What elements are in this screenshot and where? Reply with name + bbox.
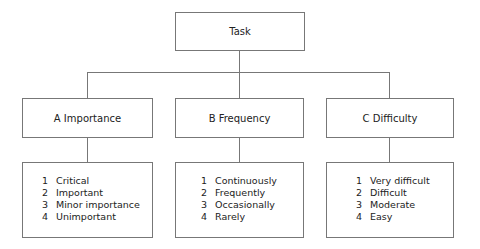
list-item: 3Minor importance [42, 199, 140, 211]
importance-label: A Importance [54, 113, 121, 124]
task-node: Task [175, 12, 305, 51]
list-item: 3Occasionally [201, 199, 277, 211]
frequency-label: B Frequency [209, 113, 271, 124]
list-item: 1Critical [42, 175, 140, 187]
list-item: 4Rarely [201, 211, 277, 223]
connector-a-down [87, 72, 88, 98]
connector-c-list [389, 137, 390, 162]
connector-root-down [239, 51, 240, 72]
list-item: 1Very difficult [356, 175, 430, 187]
list-item: 3Moderate [356, 199, 430, 211]
list-item: 2Difficult [356, 187, 430, 199]
importance-node: A Importance [22, 98, 153, 138]
difficulty-label: C Difficulty [363, 113, 418, 124]
difficulty-node: C Difficulty [326, 98, 454, 138]
list-item: 1Continuously [201, 175, 277, 187]
connector-c-down [389, 72, 390, 98]
list-item: 4Unimportant [42, 211, 140, 223]
connector-a-list [87, 137, 88, 162]
connector-b-list [239, 137, 240, 162]
task-label: Task [229, 26, 251, 37]
list-item: 2Frequently [201, 187, 277, 199]
difficulty-scale-list: 1Very difficult 2Difficult 3Moderate 4Ea… [356, 175, 430, 223]
list-item: 2Important [42, 187, 140, 199]
frequency-scale-list: 1Continuously 2Frequently 3Occasionally … [201, 175, 277, 223]
importance-scale-list: 1Critical 2Important 3Minor importance 4… [42, 175, 140, 223]
connector-b-down [239, 72, 240, 98]
list-item: 4Easy [356, 211, 430, 223]
frequency-node: B Frequency [175, 98, 304, 138]
